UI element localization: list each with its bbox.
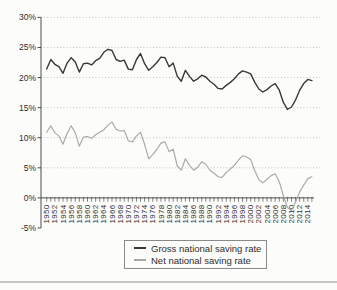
legend-label-gross: Gross national saving rate [151, 243, 261, 254]
net-line-swatch [134, 259, 146, 261]
y-tick-labels: 30%25%20%15%10%5%0%-5% [19, 12, 36, 233]
chart-legend: Gross national saving rate Net national … [124, 240, 267, 269]
svg-text:-5%: -5% [21, 223, 37, 233]
net-saving-rate-line [47, 122, 312, 210]
svg-text:0%: 0% [24, 193, 37, 203]
axes [38, 17, 315, 228]
gross-line-swatch [134, 247, 146, 249]
svg-text:30%: 30% [19, 12, 36, 22]
legend-label-net: Net national saving rate [151, 255, 251, 266]
svg-text:10%: 10% [19, 133, 36, 143]
svg-text:2014: 2014 [303, 204, 312, 223]
y-gridlines [41, 17, 320, 167]
figure-page: 30%25%20%15%10%5%0%-5%195019521954195619… [0, 0, 337, 290]
svg-text:25%: 25% [19, 42, 36, 52]
page-bottom-rule [0, 281, 337, 283]
svg-text:5%: 5% [24, 163, 37, 173]
legend-item-net: Net national saving rate [134, 255, 266, 267]
legend-item-gross: Gross national saving rate [134, 243, 266, 255]
saving-rates-line-chart: 30%25%20%15%10%5%0%-5%195019521954195619… [0, 0, 337, 238]
x-tick-labels: 1950195219541956195819601962196419661968… [42, 204, 312, 223]
svg-text:20%: 20% [19, 73, 36, 83]
gross-saving-rate-line [47, 49, 312, 109]
svg-text:15%: 15% [19, 103, 36, 113]
